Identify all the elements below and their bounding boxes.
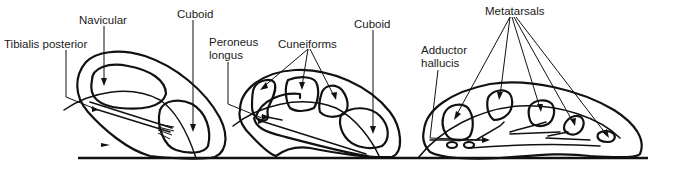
panel1-navicular-bone (91, 65, 166, 109)
panel3-tendon-6 (470, 145, 600, 148)
leader-metatarsals-1 (456, 17, 510, 116)
leader-peroneus-longus (228, 62, 262, 118)
panel3-arch-curve (418, 106, 620, 158)
panel-3-section (418, 17, 642, 159)
panel3-tendon-3 (510, 132, 560, 134)
panel-2-section (228, 30, 400, 158)
leader-cuneiforms-2 (302, 49, 308, 86)
foot-cross-section-diagram: Tibialis posterior Navicular Cuboid Pero… (0, 0, 683, 171)
panel3-sesamoid-1 (447, 142, 457, 148)
leader-tibialis-posterior (66, 50, 98, 110)
diagram-artwork (0, 0, 683, 171)
leader-metatarsals-2 (500, 17, 510, 96)
panel-1-section (64, 20, 225, 159)
panel3-tendon-1 (476, 122, 504, 140)
panel3-metatarsal-1 (443, 105, 473, 141)
panel1-small-arrowhead (101, 143, 110, 147)
panel3-tendon-5 (546, 138, 590, 140)
leader-cuneiforms-3 (310, 49, 334, 96)
